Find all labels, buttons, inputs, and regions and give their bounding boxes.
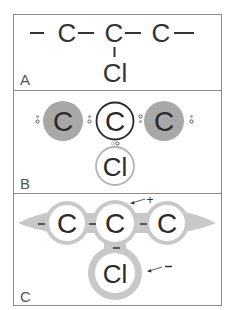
atom-c-center: C (105, 106, 125, 137)
atom-cl: Cl (103, 259, 128, 289)
panel-label-a: A (20, 71, 30, 88)
plus-sign: + (146, 193, 153, 207)
atom-c-right: C (154, 106, 174, 137)
atom-c-left: C (57, 208, 77, 239)
atom-cl: Cl (103, 152, 128, 182)
atom-c-left: C (53, 106, 73, 137)
atom-c-right: C (157, 208, 177, 239)
atom-c-center: C (105, 18, 124, 48)
polarization-figure: C C C Cl A C C C Cl (0, 0, 236, 310)
atom-c-center: C (105, 208, 125, 239)
panel-label-b: B (20, 175, 30, 192)
panel-label-c: C (20, 288, 31, 305)
atom-cl: Cl (103, 58, 128, 88)
atom-c-right: C (152, 18, 171, 48)
atom-c-left: C (58, 18, 77, 48)
